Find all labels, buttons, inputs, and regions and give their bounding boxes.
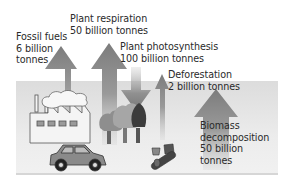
plant-respiration-amount: 50 billion tonnes xyxy=(70,25,148,37)
fossil-fuels-unit: tonnes xyxy=(16,54,67,66)
biomass-decomposition-label: Biomass decomposition 50 billion tonnes xyxy=(200,120,269,166)
plant-respiration-title: Plant respiration xyxy=(70,13,148,25)
deforestation-amount: 2 billion tonnes xyxy=(168,81,240,93)
fossil-fuels-title: Fossil fuels xyxy=(16,31,67,43)
deforestation-label: Deforestation 2 billion tonnes xyxy=(168,69,240,92)
car-icon xyxy=(50,145,106,171)
plant-photosynthesis-amount: 100 billion tonnes xyxy=(120,53,218,65)
deforestation-title: Deforestation xyxy=(168,69,240,81)
biomass-decomposition-unit: tonnes xyxy=(200,155,269,167)
fossil-fuels-label: Fossil fuels 6 billion tonnes xyxy=(16,31,67,66)
plant-photosynthesis-label: Plant photosynthesis 100 billion tonnes xyxy=(120,41,218,64)
logs-icon xyxy=(151,144,175,169)
biomass-decomposition-title-1: Biomass xyxy=(200,120,269,132)
biomass-decomposition-amount: 50 billion xyxy=(200,143,269,155)
deforestation-arrow-icon xyxy=(155,74,169,140)
plant-respiration-label: Plant respiration 50 billion tonnes xyxy=(70,13,148,36)
plant-photosynthesis-arrow-icon xyxy=(121,67,151,111)
plant-photosynthesis-title: Plant photosynthesis xyxy=(120,41,218,53)
fossil-fuels-amount: 6 billion xyxy=(16,43,67,55)
biomass-decomposition-title-2: decomposition xyxy=(200,132,269,144)
smoke-cloud-icon xyxy=(42,90,87,108)
